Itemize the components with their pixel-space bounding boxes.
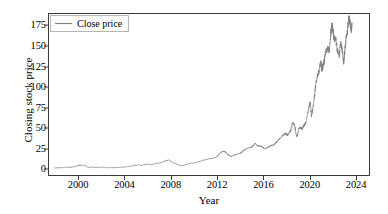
x-tick-label: 2016 (253, 180, 274, 191)
legend-line-icon (55, 20, 72, 27)
x-axis-label: Year (48, 194, 370, 206)
y-axis-label: Closing stock price (22, 25, 34, 175)
x-tick-mark (124, 176, 125, 180)
x-tick-mark (217, 176, 218, 180)
series-close-price (49, 14, 369, 175)
x-tick-label: 2020 (299, 180, 320, 191)
x-tick-mark (78, 176, 79, 180)
x-tick-label: 2008 (160, 180, 181, 191)
legend-label-close-price: Close price (77, 18, 122, 29)
x-tick-mark (263, 176, 264, 180)
x-tick-label: 2012 (207, 180, 228, 191)
x-tick-label: 2024 (346, 180, 367, 191)
x-tick-label: 2004 (114, 180, 135, 191)
x-tick-mark (310, 176, 311, 180)
data-line-close-price (55, 15, 352, 168)
x-tick-mark (171, 176, 172, 180)
plot-area (48, 13, 370, 176)
legend: Close price (50, 15, 129, 32)
chart-figure: 0255075100125150175 Closing stock price … (0, 0, 388, 214)
x-tick-label: 2000 (68, 180, 89, 191)
x-tick-mark (356, 176, 357, 180)
